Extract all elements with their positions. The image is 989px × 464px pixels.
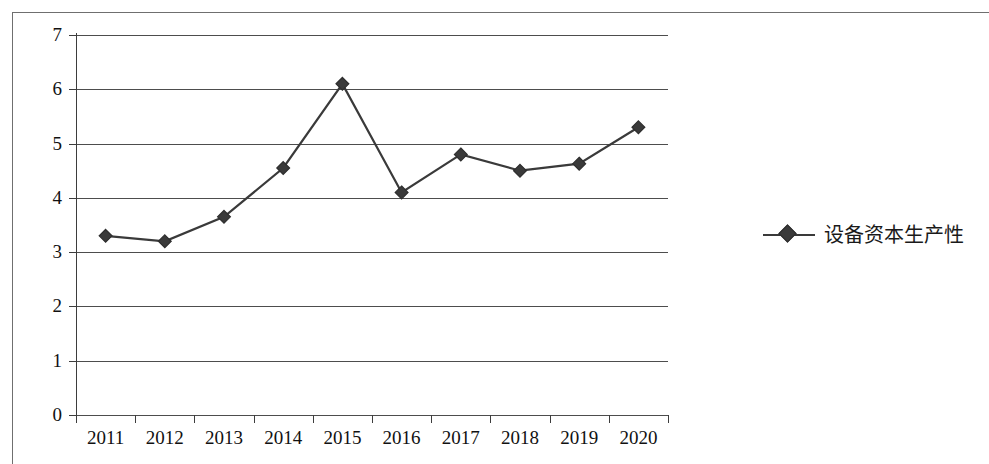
data-point-2017 bbox=[454, 148, 467, 161]
data-point-2012 bbox=[158, 235, 171, 248]
data-point-2018 bbox=[514, 164, 527, 177]
data-point-2011 bbox=[99, 229, 112, 242]
data-point-2019 bbox=[573, 157, 586, 170]
chart-legend: 设备资本生产性 bbox=[763, 224, 964, 246]
series-line-设备资本生产性 bbox=[106, 84, 639, 241]
data-point-2020 bbox=[632, 121, 645, 134]
data-point-2016 bbox=[395, 186, 408, 199]
legend-symbol bbox=[763, 226, 815, 244]
legend-entry-label: 设备资本生产性 bbox=[824, 224, 964, 246]
series-markers bbox=[99, 77, 645, 247]
diamond-marker-icon bbox=[778, 224, 796, 242]
